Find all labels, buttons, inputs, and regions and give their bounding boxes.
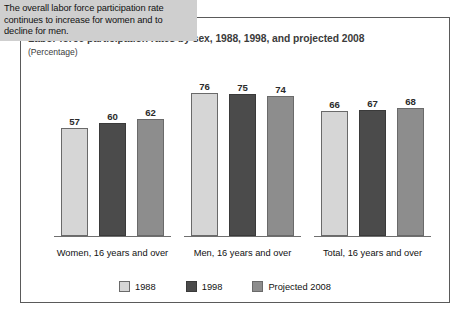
chart-subtitle: (Percentage) [28, 47, 78, 57]
callout-text: The overall labor force participation ra… [4, 3, 192, 38]
bar-value-label: 67 [353, 98, 392, 109]
bar-1998-1 [229, 94, 256, 236]
legend-item-projected-2008[interactable]: Projected 2008 [252, 281, 331, 292]
bar-projected-2008-2 [397, 108, 424, 236]
bar-group: 767574 [184, 62, 301, 237]
bar-1988-2 [321, 111, 348, 236]
group-baseline [184, 236, 301, 237]
bar-value-label: 68 [391, 96, 430, 107]
bar-group: 666768 [314, 62, 431, 237]
category-label: Total, 16 years and over [304, 248, 441, 258]
bar-projected-2008-1 [267, 96, 294, 236]
bar-1988-0 [61, 128, 88, 236]
bar-1988-1 [191, 93, 218, 236]
bar-value-label: 74 [261, 84, 300, 95]
bar-1998-0 [99, 123, 126, 236]
bar-1998-2 [359, 110, 386, 236]
legend-swatch-icon [186, 281, 197, 292]
legend-swatch-icon [252, 281, 263, 292]
bar-value-label: 76 [185, 81, 224, 92]
legend-item-1988[interactable]: 1988 [119, 281, 156, 292]
plot-area: 576062767574666768 [20, 62, 430, 237]
legend-swatch-icon [119, 281, 130, 292]
legend-item-1998[interactable]: 1998 [186, 281, 223, 292]
legend-label: 1988 [135, 282, 156, 292]
category-label: Men, 16 years and over [174, 248, 311, 258]
bar-value-label: 66 [315, 99, 354, 110]
bar-value-label: 62 [131, 107, 170, 118]
group-baseline [314, 236, 431, 237]
legend-label: 1998 [202, 282, 223, 292]
bar-projected-2008-0 [137, 119, 164, 236]
callout-box: The overall labor force participation ra… [0, 0, 197, 41]
chart-legend: 19881998Projected 2008 [20, 281, 430, 292]
category-label: Women, 16 years and over [44, 248, 181, 258]
bar-value-label: 57 [55, 116, 94, 127]
bar-value-label: 60 [93, 111, 132, 122]
legend-label: Projected 2008 [268, 282, 331, 292]
group-baseline [54, 236, 171, 237]
bar-value-label: 75 [223, 82, 262, 93]
bar-group: 576062 [54, 62, 171, 237]
